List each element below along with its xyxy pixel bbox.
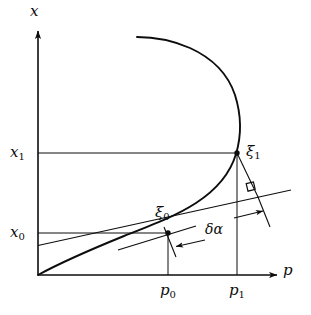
guide-lines-group: [38, 153, 237, 275]
point-label-xi1: ξ1: [246, 144, 261, 161]
delta-alpha-arrow-right: [234, 211, 263, 218]
tick-label-x0-subscript: 0: [18, 231, 24, 242]
tick-label-p1-base: p: [229, 281, 239, 299]
tick-label-x1-subscript: 1: [18, 151, 24, 162]
tick-label-p0-base: p: [160, 281, 170, 299]
tick-label-p0: p0: [160, 283, 176, 300]
delta-alpha-label: δα: [205, 222, 223, 236]
tick-label-x0: x0: [10, 225, 25, 242]
tick-label-p1: p1: [229, 283, 245, 300]
tangent-segment-at-xi0: [118, 226, 196, 250]
tick-label-p0-subscript: 0: [170, 289, 176, 300]
point-marker-xi1: [234, 150, 239, 155]
point-label-xi0-subscript: 0: [163, 211, 169, 222]
y-axis-label: x: [30, 4, 38, 19]
tick-label-p1-subscript: 1: [239, 289, 245, 300]
diagram-svg: [0, 0, 311, 315]
point-marker-xi0: [165, 230, 170, 235]
tick-label-x1: x1: [10, 145, 25, 162]
right-angle-marker: [246, 182, 255, 191]
point-label-xi0: ξ0: [155, 205, 170, 222]
figure-canvas: x p x1 x0 p0 p1 ξ0 ξ1 δα: [0, 0, 311, 315]
point-label-xi1-subscript: 1: [254, 150, 260, 161]
delta-alpha-arrow-left: [176, 240, 205, 247]
x-axis-label: p: [283, 263, 293, 278]
